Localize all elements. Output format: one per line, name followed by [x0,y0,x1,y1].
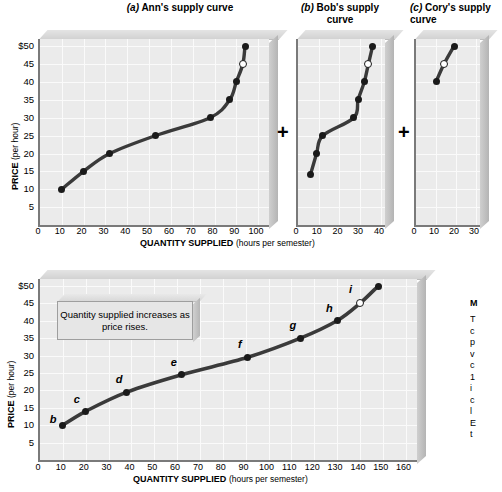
caption-line: 1 [470,372,484,384]
caption-line: t [470,429,484,438]
cory-data-point [440,60,448,68]
ann-x-tick: 80 [203,226,223,236]
cory-x-tick: 10 [424,226,444,236]
ann-x-tick: 30 [93,226,113,236]
market-data-point [123,389,130,396]
market-y-tick: 25 [8,367,34,378]
caption-line: l [470,406,484,418]
market-data-point [375,283,382,290]
annotation-callout: Quantity supplied increases as price ris… [57,294,205,340]
cory-x-tick: 20 [444,226,464,236]
market-x-tick: 160 [394,462,414,472]
market-x-tick: 150 [371,462,391,472]
market-data-point [82,408,89,415]
callout-right-face [193,298,200,342]
market-point-label-g: g [290,319,297,331]
ann-x-tick: 50 [137,226,157,236]
ann-x-tick: 70 [181,226,201,236]
ann-x-tick: 60 [159,226,179,236]
market-data-point [334,317,341,324]
market-x-tick: 50 [142,462,162,472]
market-y-tick: 10 [8,419,34,430]
cory-x-tick: 0 [404,226,424,236]
caption-line: v [470,349,484,361]
market-point-label-i: i [349,283,352,295]
ann-y-tick: 45 [8,58,34,69]
cory-plot-area [414,39,480,227]
market-box-right-face [417,275,426,464]
market-point-label-e: e [171,356,177,368]
bob-x-tick: 0 [286,226,306,236]
bob-x-tick: 20 [327,226,347,236]
ann-y-tick: 25 [8,130,34,141]
market-y-tick: 45 [8,297,34,308]
ann-y-tick: $50 [8,40,34,51]
caption-line: i [470,383,484,395]
cory-curve-path [416,39,480,225]
cory-plot-box [414,30,494,225]
market-x-tick: 70 [188,462,208,472]
market-x-tick: 140 [348,462,368,472]
market-data-point [297,335,304,342]
plus-operator-1: + [277,122,289,142]
ann-x-tick: 90 [224,226,244,236]
right-caption: M T c p v c 1 i c l E t [470,298,484,438]
market-x-tick: 20 [74,462,94,472]
chart-market: PRICE (per hour) bcdefghij Quantity supp… [0,258,484,492]
market-x-tick: 130 [325,462,345,472]
cory-data-point [451,43,458,50]
market-point-label-c: c [74,393,80,405]
caption-line: c [470,326,484,338]
market-point-label-f: f [238,338,242,350]
right-caption-heading: M [470,298,484,309]
market-x-axis-label-main: QUANTITY SUPPLIED [133,474,226,484]
market-y-tick: $50 [8,280,34,291]
ann-y-tick: 15 [8,165,34,176]
bob-x-tick: 40 [369,226,389,236]
market-point-label-b: b [50,413,57,425]
ann-x-tick: 100 [246,226,266,236]
market-y-tick: 35 [8,332,34,343]
market-x-tick: 0 [28,462,48,472]
caption-line: T [470,314,484,326]
ann-x-tick: 20 [72,226,92,236]
market-data-point [59,422,66,429]
ann-y-tick: 40 [8,76,34,87]
market-x-tick: 10 [51,462,71,472]
right-caption-body: T c p v c 1 i c l E t [470,314,484,438]
cory-x-tick: 30 [464,226,484,236]
caption-line: c [470,395,484,407]
ann-y-tick: 10 [8,183,34,194]
market-x-tick: 110 [279,462,299,472]
market-x-tick: 100 [257,462,277,472]
cory-box-right-face [480,35,489,229]
cory-data-point [433,78,440,85]
market-x-axis-label-unit: (hours per semester) [229,474,308,484]
callout-text: Quantity supplied increases as price ris… [57,301,193,340]
ann-y-tick: 5 [8,201,34,212]
market-y-tick: 15 [8,402,34,413]
caption-line: p [470,337,484,349]
top-x-axis-label-unit: (hours per semester) [236,238,315,248]
ann-x-tick: 40 [115,226,135,236]
ann-x-tick: 0 [28,226,48,236]
ann-y-tick: 20 [8,148,34,159]
caption-line: c [470,360,484,372]
market-x-tick: 40 [119,462,139,472]
market-point-label-d: d [116,373,123,385]
bob-x-tick: 30 [348,226,368,236]
market-x-tick: 80 [211,462,231,472]
market-x-tick: 90 [234,462,254,472]
top-x-axis-label: QUANTITY SUPPLIED (hours per semester) [140,238,315,248]
ann-x-tick: 10 [50,226,70,236]
market-y-tick: 20 [8,384,34,395]
market-y-tick: 5 [8,437,34,448]
chart-cory [0,0,484,255]
market-x-tick: 60 [165,462,185,472]
market-point-label-h: h [326,302,333,314]
ann-y-tick: 30 [8,112,34,123]
market-y-tick: 30 [8,350,34,361]
plus-operator-2: + [398,122,410,142]
market-x-tick: 120 [302,462,322,472]
bob-x-tick: 10 [307,226,327,236]
